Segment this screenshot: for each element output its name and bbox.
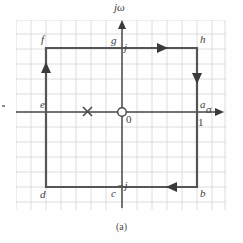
figure-container: σ jω j −j 1 0 a b c d e f g h (a) <box>0 0 243 243</box>
imag-unit-label: j <box>124 42 127 53</box>
arrow-left-up <box>41 62 51 73</box>
vertex-label-d: d <box>40 189 46 200</box>
vertex-label-g: g <box>111 35 117 46</box>
vertex-label-e: e <box>40 99 45 110</box>
neg-imag-unit-label: −j <box>117 180 127 191</box>
arrow-top-right <box>157 43 168 53</box>
vertex-label-c: c <box>111 188 116 199</box>
zero-marker <box>118 108 127 117</box>
vertex-label-h: h <box>200 34 206 45</box>
page-edge-mark <box>2 105 5 107</box>
real-axis-arrowhead <box>215 108 224 116</box>
real-unit-label: 1 <box>198 117 204 128</box>
arrow-right-down <box>192 73 202 84</box>
vertex-label-b: b <box>200 188 206 199</box>
origin-label: 0 <box>126 114 132 125</box>
jomega-axis-label: jω <box>114 2 125 13</box>
vertex-label-f: f <box>41 34 44 45</box>
vertex-label-a: a <box>200 99 206 110</box>
sigma-axis-label: σ <box>206 104 211 115</box>
arrow-bottom-left <box>166 182 177 192</box>
imag-axis-arrowhead <box>118 20 126 29</box>
figure-caption: (a) <box>0 221 243 232</box>
